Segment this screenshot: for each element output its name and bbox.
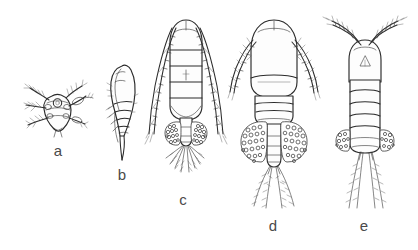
figure-d-egg-sac-left <box>241 122 267 163</box>
figure-c-prosome <box>170 20 202 120</box>
figure-d-caudal-rami <box>252 166 294 208</box>
figure-label-e: e <box>352 218 376 233</box>
figure-e-cephalosome <box>349 40 381 82</box>
nauplius-appendage-upper-left <box>24 84 49 100</box>
figure-e-antennule-right <box>369 16 407 45</box>
nauplius-appendage-lower-left <box>26 115 48 128</box>
figure-c-adult-female-elongate <box>142 14 230 190</box>
figure-d-adult-female-broad <box>228 16 320 212</box>
figure-e-antennule-left <box>323 16 361 45</box>
figure-label-a: a <box>46 143 70 158</box>
figure-c-egg-sac-left <box>165 122 181 145</box>
figure-e-adult-female-slender <box>318 12 412 210</box>
nauplius-appendage-upper-right <box>66 80 87 98</box>
figure-e-egg-sac-left <box>336 130 350 151</box>
figure-label-b: b <box>110 167 134 182</box>
nauplius-appendage-mid-left <box>24 102 46 111</box>
figure-c-caudal-setae-fan <box>166 146 204 172</box>
figure-e-caudal-setae <box>346 152 386 208</box>
figure-e-metasome <box>350 80 380 153</box>
specimen-plate: a <box>0 0 418 250</box>
figure-label-d: d <box>261 218 285 233</box>
figure-c-egg-sac-right <box>191 122 207 145</box>
nauplius-appendage-mid-right <box>69 93 93 106</box>
nauplius-appendage-lower-right <box>69 116 88 128</box>
figure-label-c: c <box>171 192 195 207</box>
figure-d-prosome <box>251 20 297 98</box>
figure-d-urosome <box>267 124 281 167</box>
figure-e-egg-sac-right <box>380 130 394 151</box>
figure-d-egg-sac-right <box>281 122 307 163</box>
figure-c-urosome <box>180 118 192 146</box>
figure-a-nauplius-larva <box>22 72 94 140</box>
